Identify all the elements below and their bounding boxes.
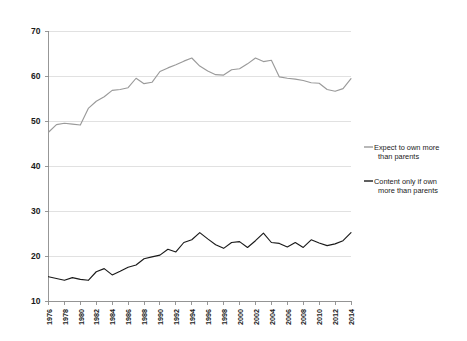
- legend-label-line2: than parents: [378, 152, 419, 161]
- line-chart: 70605040302010 1976197819801982198419861…: [0, 0, 467, 341]
- chart-canvas: 70605040302010 1976197819801982198419861…: [0, 0, 467, 341]
- x-tick-label: 1998: [220, 309, 229, 325]
- y-tick-label: 30: [31, 206, 41, 216]
- series-line-content-only-if-own-more: [49, 233, 352, 281]
- y-axis-tick-group: 70605040302010: [31, 26, 48, 306]
- x-tick-label: 2000: [236, 309, 245, 325]
- y-tick-label: 70: [31, 26, 41, 36]
- legend-label-line2: more than parents: [378, 186, 438, 195]
- x-tick-label: 2012: [331, 309, 340, 325]
- y-tick-label: 20: [31, 251, 41, 261]
- x-tick-label: 2008: [299, 309, 308, 325]
- legend-label-line1: Expect to own more: [374, 143, 439, 152]
- x-tick-label: 2010: [315, 309, 324, 325]
- x-tick-label: 1978: [61, 309, 70, 325]
- x-axis-tick-group: 1976197819801982198419861988199019921994…: [45, 301, 357, 325]
- gridlines-group: [49, 31, 352, 301]
- x-tick-label: 1984: [108, 309, 117, 325]
- x-tick-label: 1990: [156, 309, 165, 325]
- x-tick-label: 1996: [204, 309, 213, 325]
- y-tick-label: 10: [31, 296, 41, 306]
- y-tick-label: 40: [31, 161, 41, 171]
- x-tick-label: 1988: [140, 309, 149, 325]
- x-tick-label: 1986: [124, 309, 133, 325]
- y-tick-label: 50: [31, 116, 41, 126]
- x-tick-label: 2014: [347, 309, 356, 325]
- x-tick-label: 2006: [284, 309, 293, 325]
- x-tick-label: 2004: [268, 309, 277, 325]
- x-tick-label: 1992: [172, 309, 181, 325]
- x-tick-label: 1994: [188, 309, 197, 325]
- chart-legend: Expect to own morethan parentsContent on…: [364, 143, 439, 195]
- legend-label-line1: Content only if own: [374, 177, 437, 186]
- x-tick-label: 1982: [92, 309, 101, 325]
- y-tick-label: 60: [31, 71, 41, 81]
- x-tick-label: 1980: [77, 309, 86, 325]
- x-tick-label: 1976: [45, 309, 54, 325]
- x-tick-label: 2002: [252, 309, 261, 325]
- series-group: [49, 58, 352, 280]
